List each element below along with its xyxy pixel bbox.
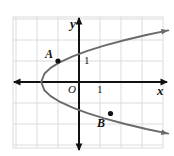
x-axis-tick-label-1: 1 bbox=[97, 84, 103, 95]
graph-figure: y x O 1 1 A B bbox=[0, 0, 174, 156]
y-axis-tick-label-1: 1 bbox=[84, 55, 90, 66]
x-axis-label: x bbox=[157, 84, 164, 97]
point-label-b: B bbox=[97, 117, 105, 129]
origin-label: O bbox=[68, 84, 76, 95]
y-axis-label: y bbox=[70, 17, 76, 30]
coordinate-plane-svg bbox=[0, 0, 174, 156]
point-label-a: A bbox=[45, 48, 53, 60]
